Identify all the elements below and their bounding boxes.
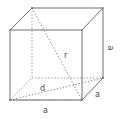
cube-drawing xyxy=(0,0,124,119)
cube-geometry-figure: a a a r d xyxy=(0,0,124,119)
vertex-front-bottom-right xyxy=(81,99,83,101)
edge-top-right-depth xyxy=(82,8,103,30)
label-edge-a-depth: a xyxy=(95,91,100,99)
label-face-diagonal-d: d xyxy=(40,85,45,93)
vertex-back-bottom-right xyxy=(102,77,104,79)
edge-bottom-left-depth xyxy=(10,78,32,100)
vertex-front-bottom-left xyxy=(9,99,11,101)
edge-top-left-depth xyxy=(10,8,32,30)
label-edge-a-right: a xyxy=(106,46,114,51)
vertex-back-top-left xyxy=(31,7,33,9)
label-edge-a-bottom: a xyxy=(43,107,48,115)
face-diagonal-d xyxy=(10,78,103,100)
label-space-diagonal-r: r xyxy=(64,52,67,60)
